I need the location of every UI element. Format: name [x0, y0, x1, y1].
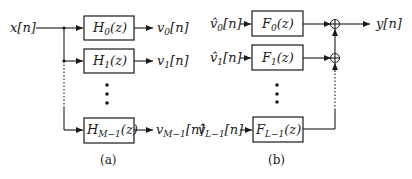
analysis-bank: x[n] H0(z) v0[n] H1(z) v1[n] HM−1(z) vM−	[10, 16, 205, 167]
input-label-vhat1: v̂1[n]	[210, 50, 243, 67]
output-label-y: y[n]	[375, 16, 403, 31]
input-label-x: x[n]	[10, 20, 37, 35]
filter-label-f1: F1(z)	[261, 50, 294, 67]
adder-1	[331, 54, 340, 63]
caption-a: (a)	[100, 153, 117, 167]
caption-b: (b)	[268, 153, 285, 167]
filter-label-h0: H0(z)	[92, 20, 127, 37]
output-label-v1: v1[n]	[157, 53, 190, 70]
filter-label-f0: F0(z)	[261, 16, 294, 33]
adder-0	[331, 20, 340, 29]
synthesis-bank: v̂0[n] F0(z) v̂1[n] F1(z) v̂L−1[n] FL−1(…	[198, 11, 403, 167]
output-label-v0: v0[n]	[157, 20, 190, 37]
input-label-vhatl1: v̂L−1[n]	[198, 122, 244, 139]
ellipsis-dots-b	[275, 83, 279, 104]
filter-label-h1: H1(z)	[92, 53, 127, 70]
ellipsis-dots-a	[105, 83, 109, 105]
input-label-vhat0: v̂0[n]	[210, 16, 243, 33]
filter-bank-diagram: x[n] H0(z) v0[n] H1(z) v1[n] HM−1(z) vM−	[0, 0, 412, 179]
